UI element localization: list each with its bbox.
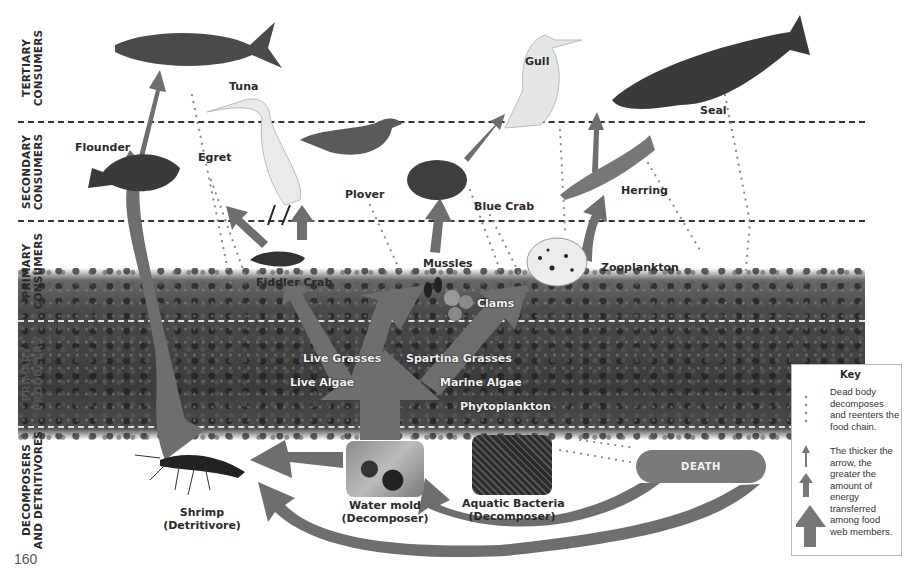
- label-water-mold: Water mold (Decomposer): [340, 499, 430, 525]
- page-number: 160: [14, 551, 37, 567]
- arrow-mussles-to-bluecrab: [425, 198, 452, 253]
- clams-icon: [444, 290, 460, 306]
- label-aquatic-bacteria: Aquatic Bacteria (Decomposer): [462, 497, 562, 523]
- label-fiddler-crab: Fiddler Crab: [256, 276, 332, 289]
- label-phytoplankton: Phytoplankton: [460, 400, 551, 413]
- label-spartina-grasses: Spartina Grasses: [406, 352, 512, 365]
- label-flounder: Flounder: [75, 141, 130, 154]
- aquatic-bacteria-name: Aquatic Bacteria: [462, 497, 562, 510]
- thin-arrow-icon: [802, 445, 810, 467]
- shrimp-icon: [160, 455, 245, 478]
- arrow-shrimp-to-flounder: [112, 150, 205, 460]
- arrow-bluecrab-to-gull: [464, 114, 505, 162]
- label-gull: Gull: [525, 55, 549, 68]
- water-mold-role: (Decomposer): [340, 512, 430, 525]
- label-plover: Plover: [345, 188, 384, 201]
- mussles-icon: [424, 282, 432, 298]
- label-shrimp: Shrimp (Detritivore): [162, 506, 242, 532]
- fiddler-crab-icon: [250, 251, 305, 266]
- organism-shapes: [88, 15, 810, 495]
- gull-icon: [505, 35, 582, 128]
- seal-icon: [612, 15, 810, 109]
- label-clams: Clams: [477, 297, 514, 310]
- egret-legs-icon: [268, 205, 290, 225]
- label-zooplankton: Zooplankton: [601, 261, 679, 274]
- key-symbols: [796, 369, 826, 554]
- blue-crab-icon: [407, 160, 467, 200]
- death-node: DEATH: [636, 450, 766, 483]
- arrow-watermold-to-shrimp: [250, 440, 343, 478]
- label-live-grasses: Live Grasses: [303, 352, 381, 365]
- aquatic-bacteria-image: [472, 435, 552, 495]
- key-arrow-description: The thicker the arrow, the greater the a…: [830, 445, 900, 537]
- label-blue-crab: Blue Crab: [474, 200, 534, 213]
- zooplankton-icon: [527, 238, 587, 286]
- flounder-icon: [88, 154, 180, 191]
- medium-arrow-icon: [799, 473, 813, 497]
- shrimp-name: Shrimp: [162, 506, 242, 519]
- plover-icon: [300, 118, 402, 154]
- tuna-icon: [115, 22, 282, 68]
- arrow-fiddler-to-egret: [226, 206, 268, 248]
- water-mold-image: [346, 441, 424, 497]
- thick-arrow-icon: [796, 505, 826, 547]
- water-mold-name: Water mold: [340, 499, 430, 512]
- key-title: Key: [840, 369, 861, 380]
- label-herring: Herring: [621, 184, 668, 197]
- arrow-herring-to-seal: [588, 112, 604, 172]
- label-tuna: Tuna: [229, 80, 258, 93]
- label-marine-algae: Marine Algae: [440, 376, 522, 389]
- dotted-line-symbol-icon: [805, 396, 808, 423]
- aquatic-bacteria-role: (Decomposer): [462, 510, 562, 523]
- label-live-algae: Live Algae: [290, 376, 354, 389]
- label-seal: Seal: [700, 104, 727, 117]
- key-dotted-description: Dead body decomposes and reenters the fo…: [830, 386, 900, 432]
- shrimp-role: (Detritivore): [162, 519, 242, 532]
- legend-key: Key Dead body decomposes and reenters th…: [791, 364, 902, 556]
- label-egret: Egret: [198, 151, 232, 164]
- arrow-flounder-to-tuna: [138, 70, 166, 161]
- food-web-graphics: [0, 0, 907, 571]
- arrow-fiddler-to-plover: [290, 205, 314, 240]
- label-mussles: Mussles: [423, 257, 473, 270]
